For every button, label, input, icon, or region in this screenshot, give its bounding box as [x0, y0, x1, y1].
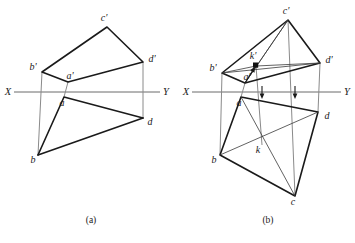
panel-a-horizontal-projection — [38, 97, 143, 155]
panel-a-connector-a — [64, 82, 68, 97]
panel-b-axis-label-y: Y — [344, 86, 351, 97]
panel-a-label-b: b — [31, 154, 36, 165]
panel-a-label-d: d — [148, 116, 154, 127]
panel-b-tick-arrow-c — [293, 94, 298, 100]
panel-a-label-a: a — [60, 97, 65, 108]
panel-b-tick-arrow-k — [260, 94, 265, 100]
panel-a-label-a-prime: a' — [66, 70, 74, 81]
panel-b-label-b: b — [212, 154, 217, 165]
panel-b-label-k: k — [256, 144, 261, 155]
caption-panel-a: (a) — [86, 215, 97, 226]
panel-b-label-c-prime: c' — [283, 5, 290, 16]
panel-b-k-prime-marker — [253, 63, 258, 68]
panel-b-axis-label-x: X — [182, 86, 190, 97]
panel-b-connector-d — [318, 63, 320, 112]
panel-b-frontal-projection — [222, 20, 320, 83]
panel-b-label-b-prime: b' — [209, 62, 217, 73]
panel-b: c' b' a' k' d' a b k d c X Y — [182, 5, 351, 207]
panel-b-label-a: a — [237, 97, 242, 108]
panel-a-label-d-prime: d' — [148, 53, 156, 64]
panel-a-label-c-prime: c' — [101, 12, 108, 23]
panel-b-connector-b — [220, 73, 222, 155]
panel-b-label-d: d — [325, 110, 331, 121]
panel-a-axis-label-x: X — [4, 86, 12, 97]
panel-b-frontal-diagonal-bd — [222, 63, 320, 73]
panel-b-label-c: c — [291, 196, 296, 207]
panel-a: c' b' a' d' a b d X Y — [4, 12, 170, 165]
panel-a-axis-label-y: Y — [163, 86, 170, 97]
panel-a-edge-b-d — [38, 118, 143, 155]
descriptive-geometry-figure: c' b' a' d' a b d X Y — [0, 0, 355, 243]
panel-b-horizontal-projection — [220, 97, 318, 196]
caption-panel-b: (b) — [262, 215, 273, 226]
panel-a-frontal-projection — [42, 27, 143, 82]
panel-b-label-k-prime: k' — [250, 50, 257, 61]
panel-b-label-a-prime: a' — [243, 71, 251, 82]
panel-b-label-d-prime: d' — [325, 54, 333, 65]
figure-root: c' b' a' d' a b d X Y — [0, 0, 355, 243]
panel-a-connector-b — [38, 72, 42, 155]
panel-b-connector-a — [241, 83, 245, 97]
panel-a-label-b-prime: b' — [29, 61, 37, 72]
